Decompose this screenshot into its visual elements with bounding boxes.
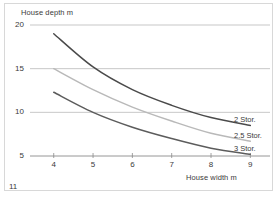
y-tick-label: 10: [8, 107, 24, 116]
x-axis-title: House width m: [186, 173, 237, 182]
page-number: 11: [9, 182, 17, 191]
x-tick-label: 6: [125, 160, 139, 169]
chart-plot-area: [0, 0, 278, 200]
x-tick-label: 9: [243, 160, 257, 169]
series-curve: [54, 92, 251, 154]
x-tick-label: 8: [204, 160, 218, 169]
series-label-2-5-stor-: 2.5 Stor.: [234, 131, 262, 140]
y-tick-label: 20: [8, 20, 24, 29]
x-tick-label: 4: [47, 160, 61, 169]
x-tick-label: 5: [86, 160, 100, 169]
x-tick-label: 7: [165, 160, 179, 169]
series-label-2-stor-: 2 Stor.: [234, 115, 256, 124]
series-curve: [54, 34, 251, 126]
y-tick-label: 5: [8, 151, 24, 160]
y-tick-label: 15: [8, 64, 24, 73]
y-axis-title: House depth m: [21, 8, 73, 17]
chart-figure: House depth m House width m 5101520 4567…: [0, 0, 278, 200]
series-label-3-stor-: 3 Stor.: [234, 144, 256, 153]
series-curve: [54, 69, 251, 141]
x-tick-marks-group: [54, 153, 251, 158]
series-curves-group: [54, 34, 251, 155]
